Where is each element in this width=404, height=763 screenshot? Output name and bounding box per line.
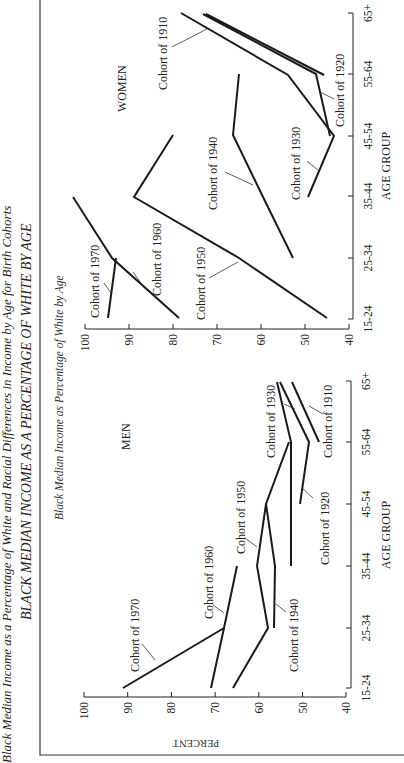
tick-label: 35-44 — [360, 552, 372, 579]
tick-label: 65+ — [360, 372, 372, 390]
men-percent-axis: 100 90 80 70 60 50 40 — [78, 692, 352, 719]
men-age-axis: 15-24 25-34 35-44 45-54 55-64 65+ AGE GR… — [346, 372, 393, 701]
tick-label: 70 — [209, 702, 221, 714]
women-annotations: Cohort of 1970 Cohort of 1960 Cohort of … — [88, 17, 347, 320]
tick-label: 80 — [167, 334, 179, 346]
men-label-cohort-1970: Cohort of 1970 — [128, 599, 142, 672]
tick-label: 90 — [123, 334, 135, 346]
tick-label: 50 — [297, 702, 309, 714]
tick-label: 35-44 — [362, 182, 374, 209]
men-x-axis-label: AGE GROUP — [379, 501, 393, 570]
women-line-cohort-1970 — [108, 258, 116, 318]
tick-label: 80 — [165, 702, 177, 714]
tick-label: 45-54 — [360, 490, 372, 517]
chart-subtitle: Black Median Income as Percentage of Whi… — [53, 275, 66, 520]
women-line-cohort-1910 — [206, 14, 324, 75]
tick-label: 45-54 — [362, 122, 374, 149]
women-label-cohort-1940: Cohort of 1940 — [206, 137, 220, 210]
y-axis-label: PERCENT — [172, 738, 219, 749]
men-label-cohort-1940: Cohort of 1940 — [287, 599, 301, 672]
women-x-axis-label: AGE GROUP — [379, 132, 393, 201]
tick-label: 40 — [343, 334, 355, 346]
tick-label: 65+ — [362, 4, 374, 22]
women-line-cohort-1920 — [203, 14, 330, 136]
tick-label: 15-24 — [360, 674, 372, 701]
tick-label: 50 — [299, 334, 311, 346]
tick-label: 60 — [253, 702, 265, 714]
tick-label: 100 — [79, 334, 91, 352]
tick-label: 100 — [78, 702, 90, 720]
figure-title: BLACK MEDIAN INCOME AS A PERCENTAGE OF W… — [19, 223, 34, 620]
women-age-axis: 15-24 25-34 35-44 45-54 55-64 65+ AGE GR… — [348, 4, 393, 332]
men-line-cohort-1940 — [266, 504, 275, 628]
figure-caption: Black Median Income as a Percentage of W… — [0, 206, 14, 763]
women-percent-axis: 100 90 80 70 60 50 40 — [79, 324, 355, 351]
tick-label: 90 — [122, 702, 134, 714]
men-label-cohort-1930: Cohort of 1930 — [264, 385, 278, 458]
men-panel-label: MEN — [119, 423, 133, 450]
women-label-cohort-1920: Cohort of 1920 — [333, 54, 347, 127]
men-label-cohort-1950: Cohort of 1950 — [234, 481, 248, 554]
women-panel-label: WOMEN — [115, 65, 129, 112]
women-label-cohort-1930: Cohort of 1930 — [289, 127, 303, 200]
tick-label: 15-24 — [362, 305, 374, 332]
tick-label: 55-64 — [360, 428, 372, 455]
men-label-cohort-1960: Cohort of 1960 — [202, 546, 216, 619]
tick-label: 70 — [211, 334, 223, 346]
women-label-cohort-1960: Cohort of 1960 — [150, 223, 164, 296]
men-line-cohort-1950 — [233, 442, 289, 688]
women-label-cohort-1950: Cohort of 1950 — [194, 247, 208, 320]
men-annotations: Cohort of 1970 Cohort of 1960 Cohort of … — [128, 385, 335, 672]
tick-label: 25-34 — [360, 614, 372, 641]
men-label-cohort-1920: Cohort of 1920 — [318, 492, 332, 565]
chart-canvas: Black Median Income as a Percentage of W… — [0, 0, 404, 763]
men-label-cohort-1910: Cohort of 1910 — [321, 385, 335, 458]
women-label-cohort-1910: Cohort of 1910 — [156, 17, 170, 90]
women-line-cohort-1940 — [233, 74, 293, 258]
men-line-cohort-1930 — [277, 382, 291, 566]
women-label-cohort-1970: Cohort of 1970 — [88, 245, 102, 318]
tick-label: 25-34 — [362, 244, 374, 271]
men-line-cohort-1920 — [280, 382, 309, 504]
tick-label: 60 — [255, 334, 267, 346]
tick-label: 40 — [340, 702, 352, 714]
tick-label: 55-64 — [362, 60, 374, 87]
